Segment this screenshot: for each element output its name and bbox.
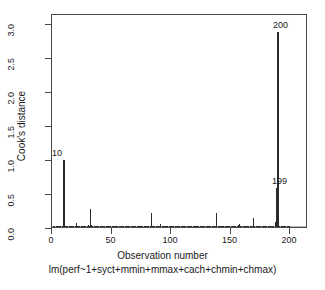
spike-obs-83 — [151, 213, 152, 227]
spike-obs-10 — [63, 160, 65, 227]
plot-panel: 10199200 — [51, 14, 307, 228]
y-tick-label-2.0: 2.0 — [8, 92, 17, 105]
x-tick-label-200: 200 — [282, 236, 297, 245]
y-tick-label-0.5: 0.5 — [8, 194, 17, 207]
point-label-200: 200 — [270, 21, 288, 30]
x-tick-label-150: 150 — [222, 236, 237, 245]
x-tick-mark-50 — [111, 228, 112, 234]
y-axis-label: Cook's distance — [17, 66, 27, 186]
point-label-199: 199 — [269, 177, 287, 186]
cooks-distance-figure: Cook's distance 0.00.51.01.52.02.53.0 10… — [0, 0, 325, 290]
spike-obs-199 — [289, 226, 290, 227]
x-tick-label-0: 0 — [48, 236, 53, 245]
x-tick-mark-100 — [170, 228, 171, 234]
y-tick-label-3.0: 3.0 — [8, 24, 17, 37]
x-tick-mark-150 — [230, 228, 231, 234]
x-tick-label-50: 50 — [106, 236, 116, 245]
x-axis: 050100150200 Observation number lm(perf~… — [0, 228, 325, 290]
x-axis-label: Observation number — [0, 250, 325, 261]
model-formula-subtitle: lm(perf~1+syct+mmin+mmax+cach+chmin+chma… — [0, 264, 325, 275]
plot-area: 10199200 — [52, 15, 306, 227]
y-tick-label-1.5: 1.5 — [8, 126, 17, 139]
x-tick-label-100: 100 — [163, 236, 178, 245]
spike-obs-138 — [216, 213, 217, 227]
y-tick-label-2.5: 2.5 — [8, 58, 17, 71]
x-tick-mark-0 — [51, 228, 52, 234]
point-label-10: 10 — [52, 149, 62, 158]
x-tick-mark-200 — [289, 228, 290, 234]
spike-obs-190 — [277, 32, 279, 227]
y-tick-label-1.0: 1.0 — [8, 160, 17, 173]
